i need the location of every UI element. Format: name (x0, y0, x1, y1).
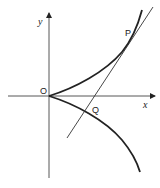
diagram-canvas: y x O P Q (0, 0, 160, 188)
point-p-label: P (125, 28, 131, 38)
tangent-line (67, 7, 153, 138)
upper-branch-curve (49, 10, 142, 96)
point-q-label: Q (92, 105, 99, 115)
y-axis-label: y (37, 16, 43, 27)
x-axis-label: x (142, 99, 148, 110)
origin-label: O (40, 86, 47, 96)
